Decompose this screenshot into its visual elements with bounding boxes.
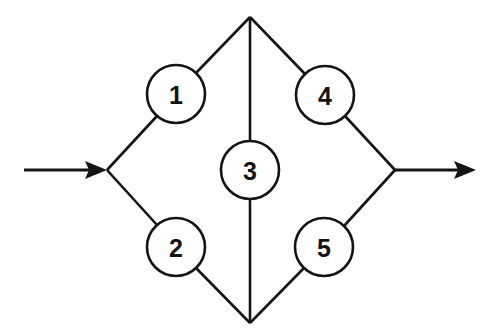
node-5[interactable]: 5 <box>295 218 353 276</box>
edge-node-2-to-bottom <box>196 268 250 323</box>
diagram-canvas: 1 2 3 4 5 <box>0 0 503 336</box>
node-3[interactable]: 3 <box>221 141 279 199</box>
input-arrow <box>24 161 107 179</box>
node-2[interactable]: 2 <box>147 218 205 276</box>
node-1[interactable]: 1 <box>147 65 205 123</box>
node-1-label: 1 <box>169 81 183 109</box>
node-4-label: 4 <box>318 82 332 110</box>
output-arrow <box>395 161 476 179</box>
edge-node-1-to-top <box>196 17 250 73</box>
node-4[interactable]: 4 <box>296 66 354 124</box>
edge-bottom-to-node-5 <box>250 268 304 323</box>
edge-left-to-node-2 <box>107 170 157 225</box>
edge-node-4-to-right <box>345 116 395 170</box>
bridge-network-diagram: 1 2 3 4 5 <box>0 0 503 336</box>
node-3-label: 3 <box>243 157 257 185</box>
edge-node-5-to-right <box>344 170 395 226</box>
node-2-label: 2 <box>169 234 183 262</box>
edge-top-to-node-4 <box>250 17 305 74</box>
edge-left-to-node-1 <box>107 116 157 170</box>
node-5-label: 5 <box>317 234 331 262</box>
